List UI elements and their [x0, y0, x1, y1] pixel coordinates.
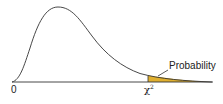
probability-shaded-region	[148, 76, 210, 83]
distribution-plot	[0, 0, 223, 104]
probability-leader-line	[158, 70, 168, 76]
chi-square-diagram: 0 χ2 Probability	[0, 0, 223, 104]
chi-superscript: 2	[150, 83, 154, 90]
origin-label: 0	[11, 84, 17, 95]
probability-label: Probability	[169, 60, 216, 71]
chi-square-label: χ2	[144, 83, 154, 95]
